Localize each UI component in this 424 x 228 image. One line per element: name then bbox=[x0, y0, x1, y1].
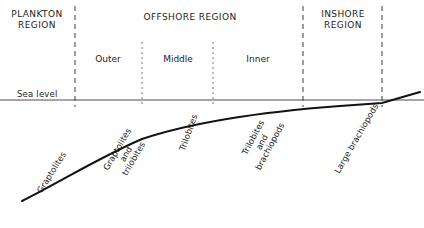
seabed-profile-curve bbox=[22, 92, 420, 201]
faunal-zonation-diagram: PLANKTON REGION OFFSHORE REGION INSHORE … bbox=[0, 0, 424, 228]
region-label-offshore: OFFSHORE REGION bbox=[120, 12, 260, 23]
region-label-inshore: INSHORE REGION bbox=[305, 9, 381, 31]
diagram-vector-layer bbox=[0, 0, 424, 228]
subregion-label-outer: Outer bbox=[78, 54, 138, 64]
subregion-label-middle: Middle bbox=[148, 54, 208, 64]
region-label-plankton: PLANKTON REGION bbox=[0, 9, 74, 31]
subregion-label-inner: Inner bbox=[228, 54, 288, 64]
sea-level-label: Sea level bbox=[17, 89, 58, 99]
